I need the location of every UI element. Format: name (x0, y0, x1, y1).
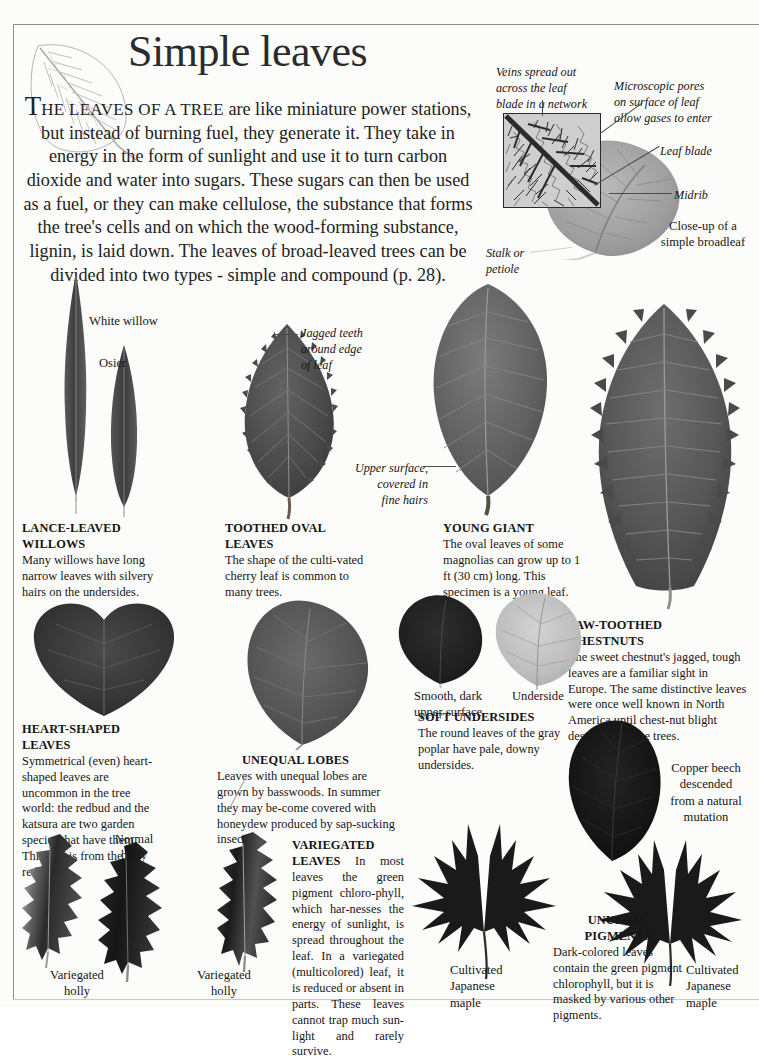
caption-heading: UNUSUAL PIGMENTS (553, 913, 683, 945)
caption-lance-leaved-willows: LANCE-LEAVED WILLOWS Many willows have l… (22, 521, 162, 600)
page-frame-left (13, 24, 14, 1000)
upper-surface-label: Upper surface, covered in fine hairs (318, 460, 428, 508)
closeup-caption: Close-up of a simple broadleaf (648, 218, 758, 251)
caption-heading: LANCE-LEAVED WILLOWS (22, 521, 121, 551)
caption-heading: YOUNG GIANT (443, 521, 534, 535)
sweet-chestnut-leaf (578, 300, 750, 610)
caption-heading: UNEQUAL LOBES (242, 753, 349, 767)
white-willow-leaf (55, 270, 95, 515)
caption-heading: TOOTHED OVAL LEAVES (225, 521, 325, 551)
upper-surface-leader-line (424, 466, 456, 467)
cultivated-japanese-maple-right-label: Cultivated Japanese maple (686, 962, 759, 1011)
underside-label: Underside (512, 688, 564, 704)
gray-poplar-underside-leaf (487, 590, 587, 690)
caption-toothed-oval-leaves: TOOTHED OVAL LEAVES The shape of the cul… (225, 521, 373, 600)
caption-variegated-leaves: VARIEGATED LEAVES In most leaves the gre… (292, 838, 404, 1059)
caption-heading: HEART-SHAPED LEAVES (22, 722, 120, 752)
caption-soft-undersides: SOFT UNDERSIDES The round leaves of the … (418, 710, 563, 774)
variegated-holly-right-leaf (215, 828, 287, 973)
basswood-unequal-lobes-leaf (240, 595, 375, 750)
pores-label: Microscopic pores on surface of leaf all… (614, 78, 740, 126)
veins-leader-line (542, 100, 543, 116)
midrib-label: Midrib (674, 187, 744, 203)
intro-body: are like miniature power stations, but i… (24, 99, 473, 285)
caption-heading: SOFT UNDERSIDES (418, 710, 535, 724)
page-frame-top (13, 24, 759, 25)
intro-paragraph: THE LEAVES OF A TREE are like miniature … (22, 96, 474, 287)
white-willow-label: White willow (89, 313, 158, 329)
caption-young-giant: YOUNG GIANT The oval leaves of some magn… (443, 521, 589, 600)
variegated-holly-right-label: Variegated holly (182, 967, 266, 1000)
copper-beech-label: Copper beech descended from a natural mu… (652, 760, 759, 825)
page-title: Simple leaves (128, 30, 367, 74)
variegated-holly-left-leaf (20, 830, 90, 970)
caption-body: Dark-colored leaves contain the green pi… (553, 945, 682, 1023)
midrib-leader-line (609, 193, 672, 194)
cultivated-japanese-maple-left-leaf (408, 820, 560, 980)
jagged-teeth-label: Jagged teeth around edge of leaf (301, 325, 397, 373)
caption-heading: SAW-TOOTHED CHESTNUTS (568, 618, 748, 650)
vein-network-inset (503, 113, 601, 208)
caption-body: The round leaves of the gray poplar have… (418, 726, 560, 772)
caption-body: Many willows have long narrow leaves wit… (22, 553, 153, 599)
osier-label: Osier (99, 355, 126, 371)
normal-holly-label: Normal holly (95, 831, 173, 864)
leaf-blade-label: Leaf blade (660, 143, 740, 159)
heart-shaped-redbud-leaf (28, 598, 180, 718)
cultivated-japanese-maple-left-label: Cultivated Japanese maple (450, 962, 540, 1011)
intro-dropcap: T (25, 91, 42, 121)
variegated-holly-left-label: Variegated holly (35, 967, 119, 1000)
caption-body: The shape of the culti-vated cherry leaf… (225, 553, 363, 599)
intro-smallcaps: HE LEAVES OF A TREE (41, 100, 224, 119)
veins-label: Veins spread out across the leaf blade i… (496, 64, 606, 112)
caption-body: In most leaves the green pigment chloro-… (292, 854, 404, 1059)
gray-poplar-upper-leaf (392, 592, 488, 688)
jagged-teeth-leader-line (276, 334, 298, 335)
caption-unusual-pigments: UNUSUAL PIGMENTS Dark-colored leaves con… (553, 913, 683, 1024)
